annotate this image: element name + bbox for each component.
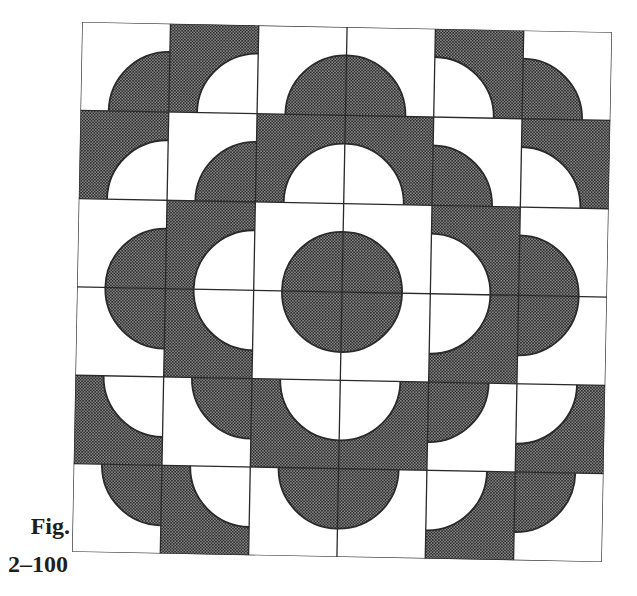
- quilt-tile: [77, 199, 167, 289]
- quilt-tile: [345, 27, 435, 117]
- quilt-tile: [522, 30, 612, 120]
- quilt-tile: [427, 382, 517, 472]
- quilt-tile: [340, 292, 430, 382]
- quilt-tile: [257, 25, 347, 115]
- quilt-tile: [434, 29, 524, 119]
- quilt-tile: [165, 200, 255, 290]
- quilt-tile: [169, 24, 259, 114]
- quilt-tile: [164, 289, 254, 379]
- quilt-tile: [75, 287, 165, 377]
- quilt-tile: [517, 295, 607, 385]
- quilt-tile: [425, 470, 515, 560]
- quilt-tile: [79, 110, 169, 200]
- quilt-tile: [252, 290, 342, 380]
- quilt-tile: [249, 467, 339, 557]
- figure-label: Fig.: [22, 514, 70, 538]
- quilt-tile: [430, 205, 520, 295]
- quilt-tile: [337, 469, 427, 559]
- quilt-tile: [344, 115, 434, 205]
- quilt-tile: [429, 294, 519, 384]
- quilt-tile: [254, 202, 344, 292]
- quilt-tile: [342, 204, 432, 294]
- quilt-tile: [520, 119, 610, 209]
- drunkards-path-tile-grid: [72, 22, 612, 562]
- quilt-tile: [162, 377, 252, 467]
- quilt-tile: [514, 472, 604, 562]
- quilt-tile: [519, 207, 609, 297]
- quilt-tile: [74, 375, 164, 465]
- quilt-tile: [339, 380, 429, 470]
- quilt-tile: [160, 465, 250, 555]
- figure-number: 2–100: [0, 552, 68, 576]
- quilt-tile: [250, 379, 340, 469]
- quilt-pattern-figure: [72, 22, 612, 562]
- quilt-tile: [515, 384, 605, 474]
- quilt-tile: [80, 22, 170, 112]
- quilt-tile: [432, 117, 522, 207]
- quilt-tile: [167, 112, 257, 202]
- quilt-tile: [72, 464, 162, 554]
- quilt-tile: [255, 114, 345, 204]
